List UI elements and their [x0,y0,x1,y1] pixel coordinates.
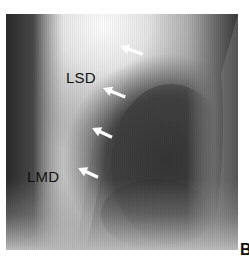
panel-letter: B [240,242,249,258]
label-lmd: LMD [27,169,59,184]
radiograph-image [6,14,238,250]
radiograph-shading [6,14,238,250]
label-lsd: LSD [66,70,96,85]
